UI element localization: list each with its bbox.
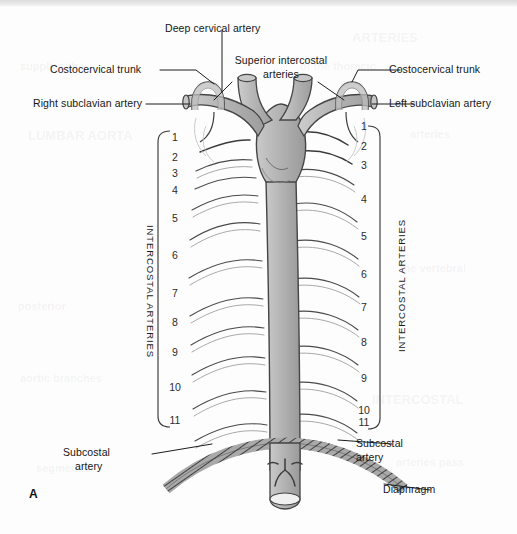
rib-number-left-6: 6: [166, 249, 184, 261]
rib-number-right-8: 8: [355, 336, 373, 348]
intercostal-curves-left: [189, 140, 267, 441]
rib-number-right-10: 10: [355, 404, 373, 416]
label-costocervical-trunk-left: Costocervical trunk: [50, 63, 141, 75]
rib-number-right-6: 6: [355, 268, 373, 280]
left-subclavian-opening: [371, 95, 377, 109]
rib-number-right-3: 3: [355, 159, 373, 171]
rib-number-left-11: 11: [166, 414, 184, 426]
rib-number-left-7: 7: [166, 287, 184, 299]
label-costocervical-trunk-right: Costocervical trunk: [389, 63, 480, 75]
rib-number-right-11: 11: [355, 416, 373, 428]
rib-number-left-9: 9: [166, 346, 184, 358]
rib-number-left-3: 3: [166, 167, 184, 179]
rib-number-right-9: 9: [355, 372, 373, 384]
label-superior-intercostal-arteries-line1: Superior intercostal: [226, 54, 336, 66]
right-superior-intercostal-branch: [200, 112, 214, 142]
rib-number-left-10: 10: [166, 381, 184, 393]
rib-number-right-5: 5: [355, 230, 373, 242]
label-diaphragm: Diaphragm: [383, 483, 435, 495]
rib-number-right-2: 2: [355, 140, 373, 152]
label-right-subclavian-artery: Right subclavian artery: [33, 97, 142, 109]
label-intercostal-arteries-left: INTERCOSTAL ARTERIES: [145, 225, 156, 358]
rib-number-left-4: 4: [166, 184, 184, 196]
label-intercostal-arteries-right: INTERCOSTAL ARTERIES: [396, 219, 407, 352]
rib-number-right-1: 1: [355, 120, 373, 132]
descending-aorta: [266, 180, 300, 470]
aorta-cut-end: [270, 493, 300, 505]
label-left-subclavian-artery: Left subclavian artery: [389, 97, 491, 109]
rib-number-left-5: 5: [166, 212, 184, 224]
rib-number-left-1: 1: [166, 131, 184, 143]
rib-number-right-4: 4: [355, 193, 373, 205]
label-superior-intercostal-arteries-line2: arteries: [226, 68, 336, 80]
rib-number-left-2: 2: [166, 151, 184, 163]
label-subcostal-artery-left-line1: Subcostal: [63, 446, 110, 458]
right-subclavian-opening: [183, 95, 189, 109]
label-deep-cervical-artery: Deep cervical artery: [165, 22, 260, 34]
figure-page: ARTERIESsupplies theof the thoracicLUMBA…: [0, 0, 517, 534]
rib-number-left-8: 8: [166, 316, 184, 328]
panel-letter-a: A: [29, 487, 38, 501]
rib-number-right-7: 7: [355, 301, 373, 313]
label-subcostal-artery-right-line1: Subcostal: [356, 437, 403, 449]
label-subcostal-artery-left-line2: artery: [75, 460, 102, 472]
label-subcostal-artery-right-line2: artery: [356, 451, 383, 463]
